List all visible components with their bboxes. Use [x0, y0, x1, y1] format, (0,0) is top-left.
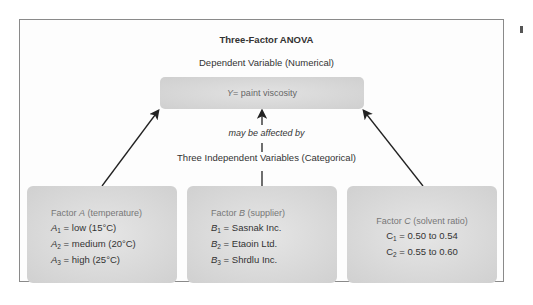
diagram-title: Three-Factor ANOVA — [0, 34, 533, 45]
factor-b-box: Factor B (supplier) B1 = Sasnak Inc. B2 … — [187, 186, 337, 283]
factor-level: C2 = 0.55 to 0.60 — [347, 245, 497, 261]
factor-level: B2 = Etaoin Ltd. — [211, 237, 337, 253]
factor-level: C1 = 0.50 to 0.54 — [347, 229, 497, 245]
factor-c-box: Factor C (solvent ratio) C1 = 0.50 to 0.… — [347, 186, 497, 283]
factor-b-heading: Factor B (supplier) — [211, 208, 337, 218]
factor-a-heading: Factor A (temperature) — [51, 208, 177, 218]
arrow-factor-c — [364, 111, 423, 186]
arrow-factor-a — [102, 111, 158, 186]
factor-level: B3 = Shrdlu Inc. — [211, 253, 337, 269]
factor-level: A2 = medium (20°C) — [51, 237, 177, 253]
independent-variables-label: Three Independent Variables (Categorical… — [0, 152, 533, 163]
factor-level: A3 = high (25°C) — [51, 253, 177, 269]
response-box: Y = paint viscosity — [160, 77, 364, 109]
factor-level: A1 = low (15°C) — [51, 221, 177, 237]
relation-label: may be affected by — [0, 128, 533, 138]
dependent-variable-label: Dependent Variable (Numerical) — [0, 57, 533, 68]
response-text: = paint viscosity — [233, 88, 297, 98]
factor-level: B1 = Sasnak Inc. — [211, 221, 337, 237]
factor-c-heading: Factor C (solvent ratio) — [347, 216, 497, 226]
factor-a-box: Factor A (temperature) A1 = low (15°C) A… — [27, 186, 177, 283]
